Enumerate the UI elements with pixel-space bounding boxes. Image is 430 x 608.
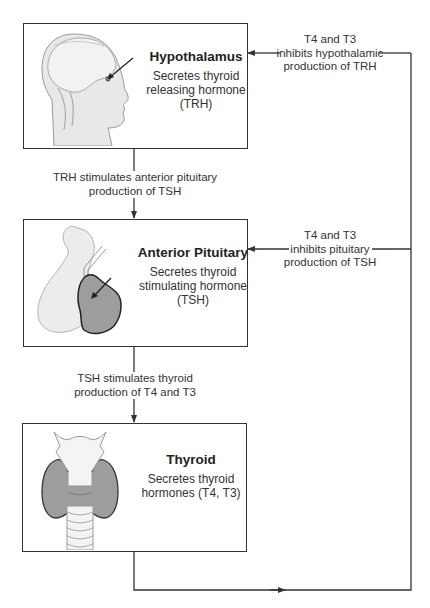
pituitary-inhibition-label-line-3: production of TSH <box>283 256 377 270</box>
thyroid-title: Thyroid <box>135 452 247 468</box>
anterior-pituitary-node: Anterior Pituitary Secretes thyroid stim… <box>23 219 248 347</box>
pituitary-gland-illustration-icon <box>34 222 144 344</box>
trh-stimulation-label-line-1: TRH stimulates anterior pituitary <box>53 171 217 185</box>
tsh-stimulation-label-line-2: production of T4 and T3 <box>74 386 196 400</box>
anterior-pituitary-desc-line-3: (TSH) <box>136 293 250 307</box>
hypothalamus-node: Hypothalamus Secretes thyroid releasing … <box>23 23 248 149</box>
tsh-stimulation-label-line-1: TSH stimulates thyroid <box>77 372 193 386</box>
hypothalamus-title: Hypothalamus <box>144 49 248 65</box>
pituitary-inhibition-label: T4 and T3 inhibits pituitary production … <box>283 229 377 270</box>
hypothalamus-inhibition-label-line-2: inhibits hypothalamic <box>275 47 385 61</box>
anterior-pituitary-desc-line-2: stimulating hormone <box>136 279 250 293</box>
anterior-pituitary-title: Anterior Pituitary <box>136 245 250 261</box>
trh-stimulation-label-line-2: production of TSH <box>89 185 181 199</box>
hypothalamus-inhibition-label-line-1: T4 and T3 <box>275 33 385 47</box>
hypothalamus-desc-line-1: Secretes thyroid <box>144 69 248 83</box>
hypothalamus-desc-line-2: releasing hormone <box>144 83 248 97</box>
hypothalamus-inhibition-label: T4 and T3 inhibits hypothalamic producti… <box>275 33 385 74</box>
pituitary-inhibition-label-line-1: T4 and T3 <box>283 229 377 243</box>
thyroid-desc-line-1: Secretes thyroid <box>135 472 247 486</box>
trh-stimulation-label: TRH stimulates anterior pituitary produc… <box>30 171 240 198</box>
thyroid-node: Thyroid Secretes thyroid hormones (T4, T… <box>22 423 247 552</box>
pituitary-inhibition-label-line-2: inhibits pituitary <box>283 243 377 257</box>
anterior-pituitary-desc-line-1: Secretes thyroid <box>136 265 250 279</box>
head-brain-illustration-icon <box>34 28 149 146</box>
thyroid-desc-line-2: hormones (T4, T3) <box>135 486 247 500</box>
thyroid-gland-illustration-icon <box>40 428 120 550</box>
hypothalamus-inhibition-label-line-3: production of TRH <box>275 60 385 74</box>
hypothalamus-desc-line-3: (TRH) <box>144 97 248 111</box>
tsh-stimulation-label: TSH stimulates thyroid production of T4 … <box>60 372 210 399</box>
